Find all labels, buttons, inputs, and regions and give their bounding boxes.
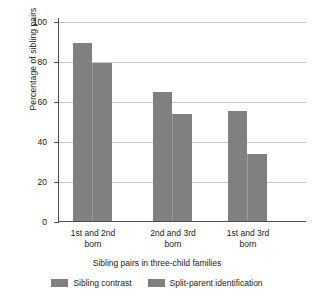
legend-item-split-parent-identification: Split-parent identification: [148, 278, 263, 288]
bar-chart-figure: Percentage of sibling pairs 100 80 60 40…: [0, 0, 314, 300]
y-tick-20: 20: [54, 182, 58, 183]
y-tick-40: 40: [54, 142, 58, 143]
x-category-label-2-line2: born: [133, 239, 213, 250]
y-tick-label-80: 80: [38, 57, 47, 67]
x-category-label-1-line1: 1st and 2nd: [53, 228, 133, 239]
y-tick-label-60: 60: [38, 97, 47, 107]
x-axis-line: [58, 221, 306, 222]
bar-group2-split-parent: [172, 114, 192, 221]
bar-group2-sibling-contrast: [153, 92, 172, 221]
x-category-label-2: 2nd and 3rd born: [133, 228, 213, 250]
bar-group1-split-parent: [92, 63, 112, 221]
x-category-label-3: 1st and 3rd born: [208, 228, 288, 250]
y-tick-60: 60: [54, 102, 58, 103]
chart-legend: Sibling contrast Split-parent identifica…: [0, 278, 314, 288]
bar-group3-split-parent: [247, 154, 267, 221]
legend-swatch-icon-sibling-contrast: [51, 279, 68, 287]
legend-label-split-parent-identification: Split-parent identification: [170, 278, 263, 288]
x-category-label-3-line1: 1st and 3rd: [208, 228, 288, 239]
y-tick-100: 100: [54, 22, 58, 23]
x-category-label-3-line2: born: [208, 239, 288, 250]
x-axis-title: Sibling pairs in three-child families: [0, 258, 314, 268]
legend-label-sibling-contrast: Sibling contrast: [73, 278, 131, 288]
y-tick-0: 0: [54, 222, 58, 223]
y-axis-line: [58, 18, 59, 223]
x-category-label-1: 1st and 2nd born: [53, 228, 133, 250]
gridline-100: [59, 22, 306, 23]
x-category-label-1-line2: born: [53, 239, 133, 250]
y-tick-label-40: 40: [38, 137, 47, 147]
legend-item-sibling-contrast: Sibling contrast: [51, 278, 131, 288]
y-tick-label-20: 20: [38, 177, 47, 187]
legend-swatch-icon-split-parent-identification: [148, 279, 165, 287]
y-tick-80: 80: [54, 62, 58, 63]
x-category-label-2-line1: 2nd and 3rd: [133, 228, 213, 239]
bar-group1-sibling-contrast: [73, 43, 92, 221]
y-tick-label-0: 0: [42, 217, 47, 227]
plot-area: 100 80 60 40 20 0: [58, 22, 306, 222]
bar-group3-sibling-contrast: [228, 111, 247, 221]
y-tick-label-100: 100: [33, 17, 47, 27]
